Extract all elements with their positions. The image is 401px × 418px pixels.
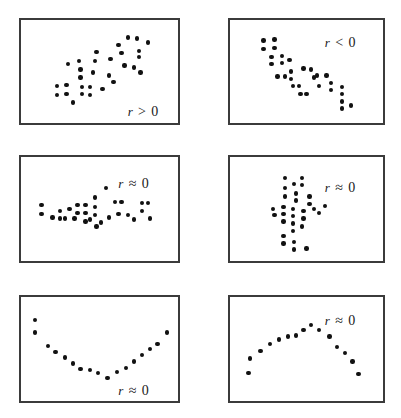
data-point: [261, 38, 265, 42]
data-point: [148, 216, 152, 220]
data-point: [281, 205, 285, 209]
data-point: [122, 63, 126, 67]
data-point: [93, 59, 97, 63]
data-point: [281, 234, 285, 238]
data-point: [268, 342, 272, 346]
annotation-operator: ≈: [124, 176, 142, 191]
data-point: [140, 209, 144, 213]
data-point: [301, 216, 305, 220]
data-point: [132, 65, 136, 69]
data-point: [99, 220, 103, 224]
data-point: [317, 84, 321, 88]
data-point: [269, 62, 273, 66]
annotation-value: 0: [348, 313, 355, 328]
data-point: [246, 371, 250, 375]
data-point: [138, 70, 142, 74]
correlation-annotation: r ≈ 0: [325, 180, 356, 196]
data-point: [93, 205, 97, 209]
correlation-annotation: r ≈ 0: [325, 313, 356, 329]
data-point: [304, 246, 308, 250]
data-point: [94, 50, 98, 54]
data-point: [291, 207, 295, 211]
data-point: [309, 323, 313, 327]
data-point: [78, 75, 82, 79]
annotation-operator: >: [133, 104, 151, 119]
annotation-value: 0: [142, 383, 149, 398]
data-point: [261, 47, 265, 51]
data-point: [327, 334, 331, 338]
data-point: [64, 92, 68, 96]
data-point: [119, 200, 123, 204]
data-point: [58, 216, 62, 220]
data-point: [286, 334, 290, 338]
data-point: [124, 366, 128, 370]
data-point: [132, 217, 136, 221]
data-point: [309, 67, 313, 71]
data-point: [78, 67, 82, 71]
data-point: [94, 224, 98, 228]
data-point: [88, 85, 92, 89]
data-point: [165, 330, 169, 334]
data-point: [75, 203, 79, 207]
data-point: [297, 84, 301, 88]
data-point: [335, 345, 339, 349]
data-point: [119, 51, 123, 55]
annotation-variable: r: [118, 176, 123, 191]
data-point: [298, 92, 302, 96]
data-point: [340, 92, 344, 96]
data-point: [93, 195, 97, 199]
data-point: [277, 337, 281, 341]
data-point: [281, 219, 285, 223]
correlation-annotation: r ≈ 0: [118, 383, 149, 399]
data-point: [271, 207, 275, 211]
data-point: [72, 216, 76, 220]
data-point: [137, 49, 141, 53]
data-point: [96, 371, 100, 375]
data-point: [349, 103, 353, 107]
annotation-value: 0: [142, 176, 149, 191]
data-point: [283, 194, 287, 198]
data-point: [323, 204, 327, 208]
data-point: [91, 70, 95, 74]
data-point: [148, 347, 152, 351]
data-point: [291, 221, 295, 225]
data-point: [88, 93, 92, 97]
data-point: [291, 214, 295, 218]
data-point: [116, 43, 120, 47]
data-point: [78, 367, 82, 371]
data-point: [329, 88, 333, 92]
data-point: [329, 81, 333, 85]
plot-area: [230, 297, 383, 401]
data-point: [294, 198, 298, 202]
data-point: [312, 207, 316, 211]
annotation-value: 0: [348, 180, 355, 195]
data-point: [63, 216, 67, 220]
data-point: [75, 211, 79, 215]
data-point: [304, 92, 308, 96]
data-point: [146, 201, 150, 205]
data-point: [300, 224, 304, 228]
data-point: [137, 55, 141, 59]
data-point: [340, 85, 344, 89]
data-point: [289, 69, 293, 73]
data-point: [126, 213, 130, 217]
data-point: [107, 215, 111, 219]
data-point: [50, 215, 54, 219]
data-point: [39, 212, 43, 216]
data-point: [287, 58, 291, 62]
data-point: [33, 330, 37, 334]
data-point: [294, 333, 298, 337]
data-point: [100, 87, 104, 91]
data-point: [272, 37, 276, 41]
data-point: [63, 355, 67, 359]
data-point: [343, 351, 347, 355]
data-point: [107, 73, 111, 77]
data-point: [275, 74, 279, 78]
data-point: [83, 211, 87, 215]
data-point: [272, 213, 276, 217]
data-point: [126, 35, 130, 39]
data-point: [248, 356, 252, 360]
data-point: [88, 368, 92, 372]
data-point: [258, 349, 262, 353]
scatterplot-panel-5: r ≈ 0: [19, 295, 180, 403]
